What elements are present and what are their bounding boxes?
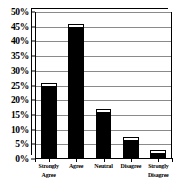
y-tick-label: 40% xyxy=(11,36,29,46)
y-tick-label: 35% xyxy=(11,51,29,61)
x-tick-label-line: Strongly xyxy=(145,162,172,171)
y-tick-label: 45% xyxy=(11,22,29,32)
bar-chart: 0%5%10%15%20%25%30%35%40%45%50% Strongly… xyxy=(0,0,183,191)
x-tick-mark xyxy=(76,158,77,162)
x-tick-label: StronglyDisagree xyxy=(145,162,172,179)
bar xyxy=(41,83,57,159)
bar-body xyxy=(41,83,57,159)
bars-layer xyxy=(35,12,172,159)
bar xyxy=(96,109,112,159)
x-tick-label-line: Agree xyxy=(62,162,89,171)
y-tick-label: 0% xyxy=(15,154,29,164)
y-tick-label: 30% xyxy=(11,66,29,76)
y-tick-label: 20% xyxy=(11,95,29,105)
x-tick-label-line: Neutral xyxy=(90,162,117,171)
y-tick-label: 5% xyxy=(15,139,29,149)
bar-top-face xyxy=(123,137,139,141)
x-tick-label-line: Agree xyxy=(35,171,62,180)
y-tick-label: 10% xyxy=(11,125,29,135)
x-tick-label: StronglyAgree xyxy=(35,162,62,179)
x-tick-mark xyxy=(49,158,50,162)
x-tick-mark xyxy=(35,158,36,162)
y-axis: 0%5%10%15%20%25%30%35%40%45%50% xyxy=(0,12,33,159)
bar-body xyxy=(96,109,112,159)
x-tick-label-line: Disagree xyxy=(145,171,172,180)
x-tick-label: Disagree xyxy=(117,162,144,171)
x-tick-mark xyxy=(172,158,173,162)
y-tick-label: 50% xyxy=(11,7,29,17)
x-tick-label-line: Disagree xyxy=(117,162,144,171)
x-tick-mark xyxy=(131,158,132,162)
y-tick-label: 15% xyxy=(11,110,29,120)
bar-top-face xyxy=(96,109,112,113)
x-tick-label: Agree xyxy=(62,162,89,171)
x-tick-label-line: Strongly xyxy=(35,162,62,171)
x-tick-label: Neutral xyxy=(90,162,117,171)
bar-top-face xyxy=(150,150,166,154)
bar xyxy=(68,24,84,159)
bar-top-face xyxy=(41,83,57,87)
y-tick-label: 25% xyxy=(11,81,29,91)
x-axis: StronglyAgreeAgreeNeutralDisagreeStrongl… xyxy=(35,162,172,191)
bar xyxy=(123,137,139,159)
bar-body xyxy=(68,24,84,159)
x-tick-mark xyxy=(104,158,105,162)
x-tick-mark xyxy=(158,158,159,162)
bar-top-face xyxy=(68,24,84,28)
